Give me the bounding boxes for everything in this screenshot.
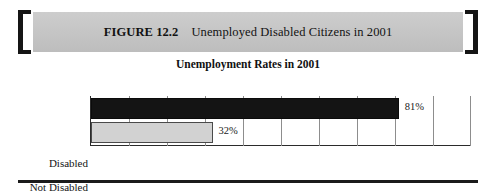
figure-caption-banner: FIGURE 12.2Unemployed Disabled Citizens … xyxy=(33,12,463,52)
figure-caption-text: FIGURE 12.2Unemployed Disabled Citizens … xyxy=(104,25,393,40)
left-bracket-icon xyxy=(18,10,31,54)
plot-area-wrapper: 81% 32% xyxy=(90,96,470,146)
category-label-disabled: Disabled xyxy=(0,157,88,169)
bar-chart: Unemployment Rates in 2001 Disabled Not … xyxy=(0,58,496,168)
gridline xyxy=(470,96,471,146)
bar-disabled xyxy=(91,98,399,119)
gridline xyxy=(433,96,434,146)
plot-area: 81% 32% xyxy=(90,96,470,146)
bar-value-disabled: 81% xyxy=(405,101,424,112)
category-label-not-disabled: Not Disabled xyxy=(0,181,88,193)
bar-not-disabled xyxy=(91,122,213,143)
figure-header: FIGURE 12.2Unemployed Disabled Citizens … xyxy=(18,10,478,54)
bar-value-not-disabled: 32% xyxy=(219,125,238,136)
figure-number: FIGURE 12.2 xyxy=(104,25,179,39)
figure-caption: Unemployed Disabled Citizens in 2001 xyxy=(191,25,392,39)
chart-title: Unemployment Rates in 2001 xyxy=(0,58,496,70)
bottom-rule xyxy=(18,180,478,183)
right-bracket-icon xyxy=(465,10,478,54)
